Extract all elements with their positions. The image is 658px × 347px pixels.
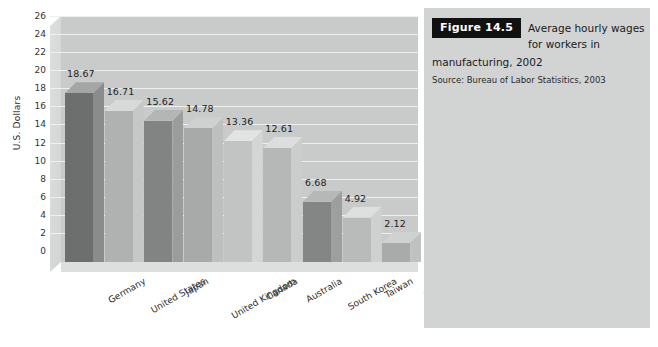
- figure-number-badge: Figure 14.5: [432, 18, 521, 38]
- bar: [263, 137, 291, 262]
- y-axis-tick-label: 26: [6, 12, 46, 21]
- bar-series: 18.6716.7115.6214.7813.3612.616.684.922.…: [50, 16, 418, 272]
- y-axis-tick-label: 16: [6, 102, 46, 111]
- y-axis-tick-labels: 02468101214161820222426: [0, 16, 46, 272]
- bar-value-label: 2.12: [384, 218, 406, 229]
- caption-line-1: Average hourly wages: [528, 20, 648, 36]
- bar: [105, 100, 133, 262]
- bar: [224, 130, 252, 262]
- bar-side-face: [252, 130, 263, 262]
- bar-value-label: 16.71: [107, 86, 135, 97]
- y-axis-tick-label: 12: [6, 139, 46, 148]
- bar-side-face: [291, 137, 302, 262]
- bar: [184, 117, 212, 262]
- chart-panel: U.S. Dollars 02468101214161820222426 18.…: [0, 0, 422, 330]
- bar-side-face: [93, 82, 104, 262]
- bar-side-face: [212, 117, 223, 262]
- y-axis-tick-label: 20: [6, 66, 46, 75]
- bar-front-face: [144, 121, 172, 262]
- bar-value-label: 18.67: [67, 68, 95, 79]
- x-axis-tick-label: Germany: [107, 276, 148, 305]
- bar: [303, 191, 331, 262]
- x-axis-tick-labels: GermanyUnited StatesJapanUnited KingdomC…: [50, 276, 430, 332]
- bar-front-face: [105, 111, 133, 262]
- plot-area: 18.6716.7115.6214.7813.3612.616.684.922.…: [50, 16, 418, 272]
- bar-value-label: 4.92: [345, 193, 367, 204]
- bar-value-label: 12.61: [265, 123, 293, 134]
- bar-front-face: [343, 218, 371, 262]
- y-axis-tick-label: 0: [6, 247, 46, 256]
- y-axis-tick-label: 14: [6, 120, 46, 129]
- y-axis-tick-label: 10: [6, 157, 46, 166]
- y-axis-tick-label: 18: [6, 84, 46, 93]
- figure-source-note: Source: Bureau of Labor Statisitics, 200…: [432, 74, 652, 86]
- x-axis-tick-label: Canada: [264, 276, 299, 302]
- bar-side-face: [331, 191, 342, 262]
- bar-front-face: [65, 93, 93, 262]
- bar: [343, 207, 371, 262]
- bar: [382, 232, 410, 262]
- bar-value-label: 13.36: [226, 116, 254, 127]
- bar: [144, 110, 172, 262]
- bar-front-face: [303, 202, 331, 262]
- bar-side-face: [172, 110, 183, 262]
- y-axis-tick-label: 6: [6, 193, 46, 202]
- bar-front-face: [184, 128, 212, 262]
- x-axis-tick-label: Japan: [184, 276, 211, 297]
- bar-front-face: [263, 148, 291, 262]
- figure-container: U.S. Dollars 02468101214161820222426 18.…: [0, 0, 658, 347]
- y-axis-tick-label: 24: [6, 30, 46, 39]
- bar-value-label: 14.78: [186, 103, 214, 114]
- y-axis-tick-label: 8: [6, 175, 46, 184]
- bar-value-label: 15.62: [146, 96, 174, 107]
- x-axis-tick-label: Australia: [305, 276, 344, 305]
- bar-value-label: 6.68: [305, 177, 327, 188]
- bar-front-face: [224, 141, 252, 262]
- y-axis-tick-label: 2: [6, 229, 46, 238]
- caption-line-3: manufacturing, 2002: [432, 54, 644, 70]
- bar-side-face: [133, 100, 144, 262]
- y-axis-tick-label: 4: [6, 211, 46, 220]
- y-axis-tick-label: 22: [6, 48, 46, 57]
- bar: [65, 82, 93, 262]
- caption-line-2: for workers in: [528, 36, 648, 52]
- bar-front-face: [382, 243, 410, 262]
- figure-caption-panel: Figure 14.5 Average hourly wages for wor…: [424, 8, 650, 328]
